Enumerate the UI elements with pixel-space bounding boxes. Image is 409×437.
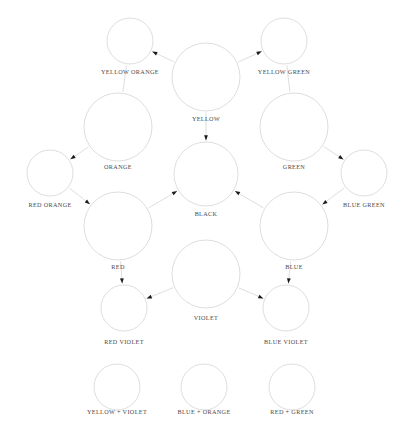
- arrow-head-violet-to-blue_violet: [258, 295, 264, 299]
- arrow-head-blue-to-black: [235, 191, 240, 195]
- color-node-orange: [84, 93, 152, 161]
- color-node-label-blue_violet: BLUE VIOLET: [264, 339, 308, 345]
- color-node-yellow_orange: [107, 18, 153, 64]
- color-node-label-black: BLACK: [195, 211, 218, 217]
- color-node-red_orange: [27, 150, 73, 196]
- connector-lines-layer: [69, 51, 344, 298]
- arrow-head-red-to-red_violet: [120, 278, 124, 283]
- color-node-label-blue_green: BLUE GREEN: [343, 202, 385, 208]
- arrow-head-yellow-to-yellow_green: [256, 51, 262, 55]
- color-wheel-canvas: [0, 0, 409, 437]
- color-node-blue_green: [341, 150, 387, 196]
- color-node-label-red_orange: RED ORANGE: [28, 202, 71, 208]
- color-node-blue: [260, 192, 328, 260]
- color-node-yellow: [172, 43, 240, 111]
- color-node-red: [84, 192, 152, 260]
- result-node-label-yellow_plus_violet: YELLOW + VIOLET: [87, 409, 147, 415]
- arrow-head-orange-to-red_orange: [70, 155, 75, 159]
- color-node-blue_violet: [263, 285, 309, 331]
- color-node-label-yellow_green: YELLOW GREEN: [258, 69, 310, 75]
- arrow-head-violet-to-red_violet: [147, 295, 153, 299]
- color-node-green: [260, 93, 328, 161]
- color-node-label-orange: ORANGE: [104, 164, 132, 170]
- arrow-head-yellow-to-yellow_orange: [152, 51, 158, 55]
- color-wheel-diagram: YELLOWYELLOW ORANGEYELLOW GREENORANGEGRE…: [0, 0, 409, 437]
- color-node-black: [174, 142, 238, 206]
- color-node-yellow_green: [261, 18, 307, 64]
- arrow-head-green-to-blue_green: [338, 155, 343, 159]
- color-node-label-red: RED: [111, 264, 124, 270]
- arrow-head-red-to-black: [172, 191, 177, 195]
- color-node-violet: [172, 240, 240, 308]
- result-node-red_plus_green: [269, 364, 315, 410]
- arrow-head-yellow-to-black: [204, 135, 208, 140]
- result-node-yellow_plus_violet: [94, 364, 140, 410]
- color-node-label-yellow: YELLOW: [192, 116, 220, 122]
- result-node-blue_plus_orange: [181, 364, 227, 410]
- result-node-label-red_plus_green: RED + GREEN: [270, 409, 313, 415]
- arrow-head-blue_green-to-blue: [322, 200, 327, 205]
- color-node-label-violet: VIOLET: [194, 315, 218, 321]
- color-node-red_violet: [101, 285, 147, 331]
- result-node-label-blue_plus_orange: BLUE + ORANGE: [177, 409, 230, 415]
- color-node-label-blue: BLUE: [285, 264, 303, 270]
- arrow-head-blue-to-blue_violet: [287, 278, 291, 283]
- color-node-label-red_violet: RED VIOLET: [104, 339, 144, 345]
- arrowheads-layer: [70, 51, 343, 298]
- color-node-label-green: GREEN: [283, 164, 305, 170]
- color-node-label-yellow_orange: YELLOW ORANGE: [101, 69, 159, 75]
- arrow-head-red_orange-to-red: [85, 199, 90, 204]
